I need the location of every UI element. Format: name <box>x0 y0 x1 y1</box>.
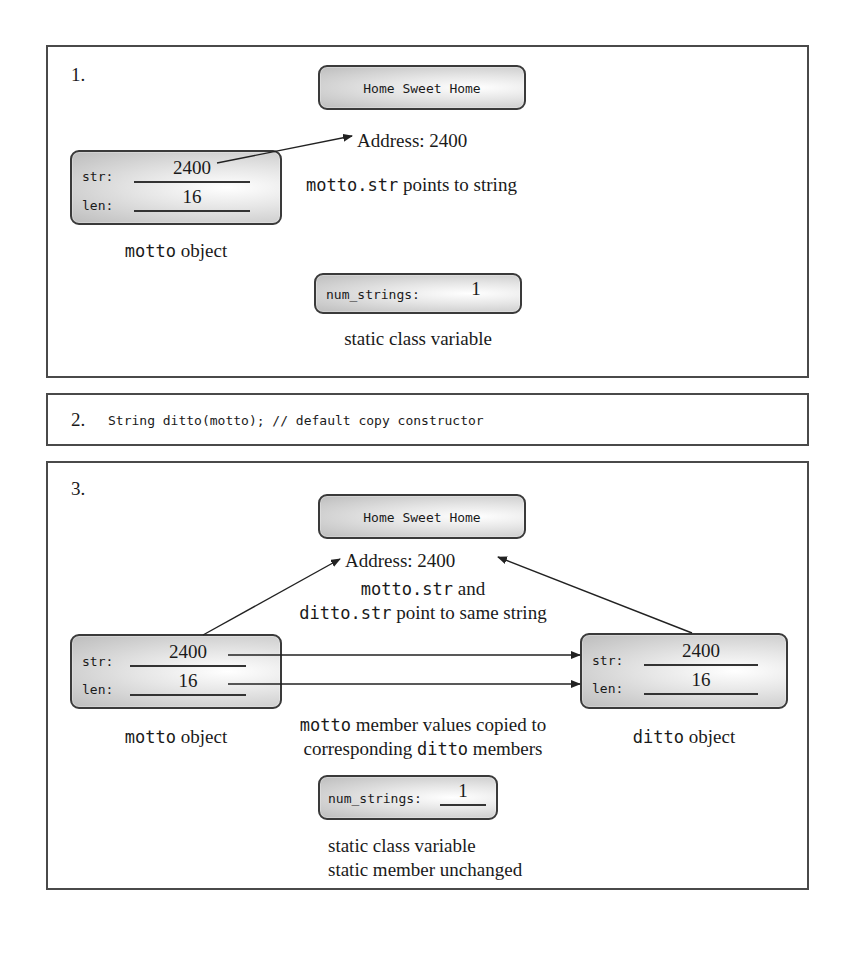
motto-object-caption: motto object <box>70 240 282 262</box>
len-field-label: len: <box>82 198 113 213</box>
motto-object-box: str: 2400 len: 16 <box>70 150 282 225</box>
caption-code: ditto <box>633 727 684 747</box>
string-content: Home Sweet Home <box>320 80 524 95</box>
ditto-object-box: str: 2400 len: 16 <box>580 633 788 709</box>
caption-text: point to same string <box>391 602 546 623</box>
string-memory-box: Home Sweet Home <box>318 65 526 110</box>
num-strings-label: num_strings: <box>328 791 422 806</box>
len-field-value: 16 <box>134 186 250 208</box>
step-number: 1. <box>71 64 85 86</box>
len-field-label: len: <box>82 682 113 697</box>
str-field-label: str: <box>592 653 623 668</box>
copy-constructor-code: String ditto(motto); // default copy con… <box>108 413 484 428</box>
str-field-value: 2400 <box>644 640 758 662</box>
len-field-label: len: <box>592 681 623 696</box>
len-field-underline <box>644 693 758 695</box>
caption-code: ditto <box>417 739 468 759</box>
static-caption: static class variable <box>328 835 476 857</box>
address-label: Address: 2400 <box>357 130 467 152</box>
static-variable-box: num_strings: 1 <box>318 775 498 820</box>
caption-text: member values copied to <box>351 714 546 735</box>
copy-caption: motto member values copied to correspond… <box>248 713 598 761</box>
caption-code: motto <box>300 715 351 735</box>
ditto-object-caption: ditto object <box>580 726 788 748</box>
static-unchanged-caption: static member unchanged <box>328 859 522 881</box>
panel-step-3: 3. Home Sweet Home Address: 2400 motto.s… <box>46 461 809 890</box>
str-field-value: 2400 <box>134 157 250 179</box>
caption-text: object <box>684 726 735 747</box>
caption-text: points to string <box>398 174 517 195</box>
num-strings-value: 1 <box>456 278 496 300</box>
num-strings-label: num_strings: <box>326 287 420 302</box>
string-content: Home Sweet Home <box>320 509 524 524</box>
step-number: 2. <box>71 409 85 431</box>
caption-text: object <box>176 240 227 261</box>
step-number: 3. <box>71 478 85 500</box>
shared-pointer-caption: motto.str and ditto.str point to same st… <box>238 577 608 625</box>
caption-text: object <box>176 726 227 747</box>
string-memory-box: Home Sweet Home <box>318 494 526 539</box>
pointer-caption: motto.str points to string <box>306 174 517 196</box>
panel-step-2: 2. String ditto(motto); // default copy … <box>46 393 809 446</box>
address-label: Address: 2400 <box>345 550 455 572</box>
caption-code: ditto.str <box>299 603 391 623</box>
caption-text: corresponding <box>303 738 416 759</box>
len-field-value: 16 <box>130 670 246 692</box>
str-field-underline <box>134 181 250 183</box>
static-caption: static class variable <box>314 328 522 350</box>
str-field-label: str: <box>82 654 113 669</box>
num-strings-value: 1 <box>440 780 486 802</box>
caption-code: motto.str <box>361 579 453 599</box>
len-field-value: 16 <box>644 669 758 691</box>
caption-code: motto.str <box>306 175 398 195</box>
caption-code: motto <box>125 727 176 747</box>
motto-object-box: str: 2400 len: 16 <box>70 634 282 709</box>
num-strings-underline <box>440 804 486 806</box>
str-field-value: 2400 <box>130 641 246 663</box>
static-variable-box: num_strings: 1 <box>314 273 522 314</box>
caption-text: and <box>453 578 485 599</box>
caption-text: members <box>468 738 542 759</box>
len-field-underline <box>134 210 250 212</box>
str-field-label: str: <box>82 169 113 184</box>
str-field-underline <box>130 665 246 667</box>
panel-step-1: 1. Home Sweet Home Address: 2400 str: 24… <box>46 45 809 378</box>
str-field-underline <box>644 664 758 666</box>
len-field-underline <box>130 694 246 696</box>
caption-code: motto <box>125 241 176 261</box>
